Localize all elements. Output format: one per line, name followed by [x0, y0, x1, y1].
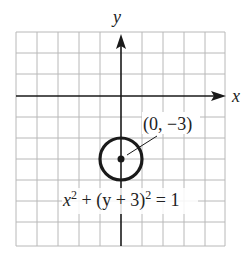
- y-axis: [116, 34, 126, 246]
- center-label: (0, −3): [143, 114, 192, 135]
- y-axis-label: y: [111, 7, 121, 27]
- x-axis-label: x: [231, 86, 240, 106]
- circle-equation: x2 + (y + 3)2 = 1: [62, 188, 179, 211]
- coordinate-plane: x y (0, −3) x2 + (y + 3)2 = 1: [0, 0, 247, 261]
- center-point: [118, 156, 125, 163]
